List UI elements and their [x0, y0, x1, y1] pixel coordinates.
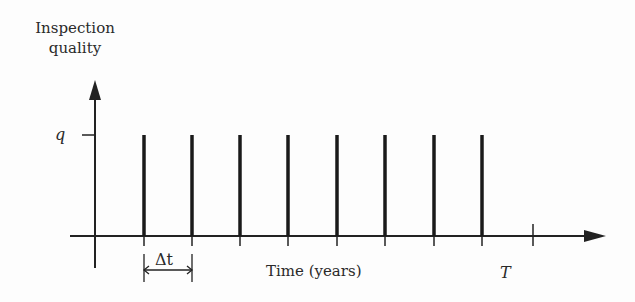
- inspection-bars: [144, 135, 482, 236]
- x-axis-arrow-icon: [584, 230, 606, 242]
- x-axis-label: Time (years): [266, 262, 362, 280]
- plot-svg: q: [0, 0, 635, 302]
- q-label: q: [55, 125, 65, 144]
- inspection-diagram: Inspection quality q: [0, 0, 635, 302]
- horizon-label: T: [500, 263, 512, 282]
- interval-label: Δt: [155, 250, 174, 269]
- y-axis-arrow-icon: [89, 80, 101, 100]
